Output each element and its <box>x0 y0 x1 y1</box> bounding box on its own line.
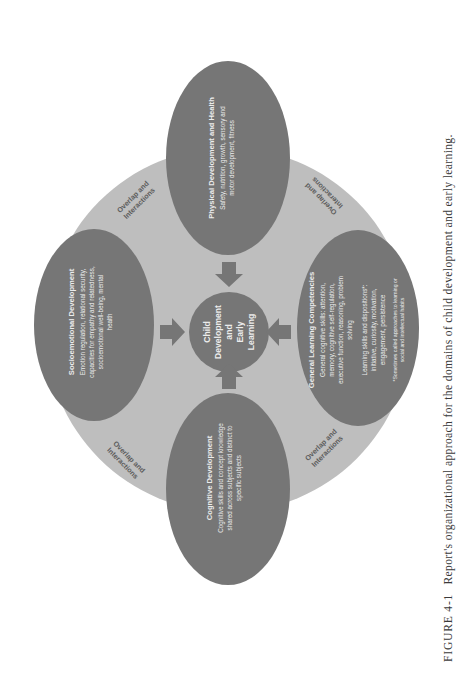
domain-title: Cognitive Development <box>205 435 214 520</box>
domain-footnote: *Sometimes called approaches to learning… <box>392 278 398 382</box>
domain-body-line: Learning skills and dispositions*: <box>361 284 369 375</box>
domain-title: General Learning Competencies <box>307 272 316 388</box>
domain-title: Physical Development and Health <box>207 97 216 219</box>
center-line: and <box>224 324 234 339</box>
domain-body-line: Emotion regulation, relational security, <box>79 269 87 376</box>
domain-body-line: health <box>106 313 113 331</box>
center-line: Child <box>202 321 212 342</box>
domain-body-line: executive function, reasoning, problem <box>337 276 345 384</box>
domain-footnote: social and intellectual habits <box>399 297 405 362</box>
figure-number: FIGURE 4-1 <box>442 594 455 662</box>
domain-title: Socioemotional Development <box>67 268 76 375</box>
domain-body-line: specific subjects <box>235 455 243 501</box>
domain-body-line: shared across subjects and distinct to <box>226 425 234 531</box>
domain-body-line: capacities for empathy and relatedness, <box>88 266 96 378</box>
figure-caption: FIGURE 4-1 Report's organizational appro… <box>443 134 455 662</box>
domain-body-line: solving <box>346 320 354 340</box>
domain-body-line: Cognitive skills and concept knowledge <box>217 423 225 533</box>
center-line: Development <box>213 305 223 359</box>
figure-caption-text: Report's organizational approach for the… <box>442 134 455 584</box>
center-line: Learning <box>246 314 256 350</box>
domain-body-line: engagement, persistence <box>379 294 387 365</box>
domain-body-line: socioemotional well-being, mental <box>97 275 105 370</box>
domain-body-line: General cognitive skills: attention, <box>319 283 327 377</box>
center-line: Early <box>235 321 245 342</box>
domain-body-line: motor development, fitness <box>228 120 236 196</box>
domain-body-line: Safety, nutrition, growth, sensory and <box>219 106 227 210</box>
domain-body-line: memory, cognitive self-regulation, <box>328 283 336 377</box>
domains-diagram: Child Development and Early Learning Phy… <box>0 0 472 693</box>
domain-body-line: initiative, curiosity, motivation, <box>370 288 378 371</box>
